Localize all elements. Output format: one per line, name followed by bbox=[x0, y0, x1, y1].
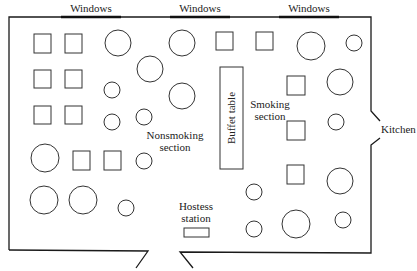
nonsmoking-label-line1: Nonsmoking bbox=[147, 129, 204, 141]
hostess-station: Hostess station bbox=[179, 200, 213, 237]
round-table bbox=[246, 184, 262, 200]
windows: Windows Windows Windows bbox=[61, 2, 339, 17]
round-table bbox=[30, 186, 58, 214]
round-table bbox=[118, 200, 134, 216]
hostess-station-desk bbox=[184, 228, 209, 237]
square-table bbox=[287, 121, 305, 140]
nonsmoking-label-line2: section bbox=[159, 141, 191, 153]
round-table bbox=[297, 32, 325, 60]
wall-bottom-left bbox=[9, 250, 148, 268]
round-table bbox=[327, 168, 353, 194]
round-table bbox=[104, 82, 120, 98]
window-2-label: Windows bbox=[179, 2, 221, 14]
round-table bbox=[136, 109, 152, 125]
round-table bbox=[327, 69, 353, 95]
smoking-label-line1: Smoking bbox=[250, 98, 290, 110]
square-table bbox=[73, 151, 90, 170]
window-1-label: Windows bbox=[70, 2, 112, 14]
kitchen-label: Kitchen bbox=[381, 123, 416, 135]
square-table bbox=[65, 34, 82, 53]
hostess-label-line1: Hostess bbox=[179, 200, 213, 212]
round-table bbox=[136, 153, 152, 169]
round-table bbox=[346, 35, 362, 51]
round-table bbox=[31, 144, 59, 172]
restaurant-floor-plan: Windows Windows Windows Buffet table Non… bbox=[0, 0, 417, 271]
hostess-label-line2: station bbox=[181, 212, 211, 224]
round-table bbox=[169, 83, 195, 109]
round-table bbox=[328, 114, 344, 130]
round-table bbox=[169, 30, 195, 56]
round-table bbox=[137, 56, 163, 82]
smoking-label-line2: section bbox=[254, 110, 286, 122]
buffet-table: Buffet table bbox=[220, 67, 243, 169]
round-table bbox=[69, 186, 97, 214]
square-table bbox=[34, 70, 51, 88]
round-table bbox=[105, 30, 131, 56]
round-table bbox=[335, 212, 351, 228]
window-3-label: Windows bbox=[288, 2, 330, 14]
square-table bbox=[104, 151, 121, 170]
square-table bbox=[65, 70, 82, 88]
round-table bbox=[246, 221, 262, 237]
square-table bbox=[256, 32, 273, 50]
square-table bbox=[34, 106, 51, 124]
square-table bbox=[287, 76, 305, 95]
round-table bbox=[104, 114, 120, 130]
square-table bbox=[287, 165, 304, 184]
round-table bbox=[282, 210, 310, 238]
square-table bbox=[216, 32, 233, 50]
buffet-table-label: Buffet table bbox=[225, 92, 237, 144]
square-table bbox=[34, 34, 51, 53]
square-table bbox=[65, 106, 82, 124]
